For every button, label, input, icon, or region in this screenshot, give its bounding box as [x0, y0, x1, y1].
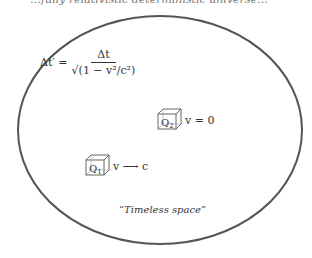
formula-lhs: Δt′ = — [40, 56, 68, 69]
formula-numerator: Δt — [91, 48, 115, 63]
q2-velocity-label: v = 0 — [185, 114, 214, 127]
timeless-space-caption: “Timeless space” — [119, 204, 206, 215]
q1-velocity-label: v ⟶ c — [113, 160, 148, 173]
cube-q1-icon: Q1 — [86, 155, 109, 176]
cube-q2-icon: Q2 — [158, 109, 181, 130]
diagram: …fully relativistic deterministic univer… — [0, 0, 312, 258]
diagram-canvas: Q2 Q1 — [0, 0, 312, 258]
time-dilation-formula: Δt′ = Δt √(1 − v²/c²) — [40, 48, 135, 77]
formula-denominator: √(1 − v²/c²) — [72, 63, 136, 77]
formula-fraction: Δt √(1 − v²/c²) — [72, 48, 136, 77]
